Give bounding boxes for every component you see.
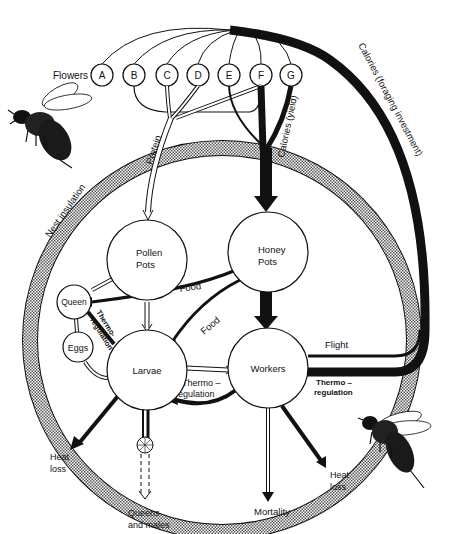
heat-loss-left-2: loss	[50, 464, 67, 474]
svg-text:Larvae: Larvae	[132, 365, 161, 376]
larvae-thermo-label-1: Thermo –	[182, 378, 221, 388]
svg-text:D: D	[194, 70, 201, 81]
valve-icon	[137, 437, 153, 453]
larvae-node: Larvae	[107, 330, 187, 410]
workers-thermo-label-2: regulation	[314, 388, 353, 397]
queens-males-label-2: and males	[128, 520, 170, 530]
energy-flow-diagram: A B C D E F G Flowers Protein Ca	[0, 0, 456, 534]
svg-text:Honey: Honey	[258, 244, 286, 255]
queens-males-label-1: Queens	[128, 508, 160, 518]
flower-f: F	[250, 64, 272, 86]
svg-text:Pollen: Pollen	[136, 247, 162, 258]
svg-text:C: C	[163, 70, 170, 81]
flowers-label: Flowers	[53, 70, 88, 81]
svg-text:F: F	[258, 70, 264, 81]
svg-text:Workers: Workers	[250, 363, 285, 374]
svg-text:Pots: Pots	[136, 259, 155, 270]
bee-illustration-right	[358, 408, 432, 488]
workers-node: Workers	[228, 328, 308, 408]
eggs-node: Eggs	[63, 332, 93, 362]
svg-text:Queen: Queen	[61, 297, 87, 307]
queen-node: Queen	[57, 285, 91, 319]
mortality-label: Mortality	[254, 506, 290, 517]
flower-e: E	[218, 64, 240, 86]
flower-g: G	[280, 64, 302, 86]
food-larvae-label: Food	[198, 314, 222, 336]
svg-text:A: A	[99, 70, 106, 81]
heat-loss-right-1: Heat	[330, 470, 350, 480]
flowers: A B C D E F G	[91, 64, 302, 86]
flower-c: C	[156, 64, 178, 86]
heat-loss-right-2: loss	[330, 482, 347, 492]
food-queen-label: Food	[179, 280, 202, 294]
svg-text:E: E	[226, 70, 233, 81]
bee-illustration-left	[8, 78, 93, 168]
workers-thermo-label-1: Thermo –	[316, 378, 353, 387]
svg-text:B: B	[131, 70, 138, 81]
flower-d: D	[187, 64, 209, 86]
svg-text:Pots: Pots	[258, 256, 277, 267]
honey-pots-node: Honey Pots	[228, 212, 308, 292]
flower-b: B	[123, 64, 145, 86]
yield-arrowhead	[254, 196, 278, 212]
heat-loss-left-1: Heat	[50, 452, 70, 462]
pollen-pots-node: Pollen Pots	[107, 220, 187, 300]
svg-text:Eggs: Eggs	[68, 343, 89, 353]
svg-text:G: G	[287, 70, 295, 81]
flight-label: Flight	[325, 339, 349, 350]
flower-a: A	[91, 64, 113, 86]
